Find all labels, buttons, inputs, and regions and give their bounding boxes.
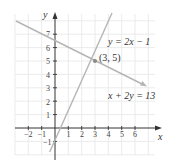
y-tick-label: −1 <box>43 138 52 147</box>
x-axis-label: x <box>157 131 163 142</box>
intersection-point <box>93 59 97 63</box>
y-axis-arrow-icon <box>53 12 58 19</box>
y-tick-label: 2 <box>46 98 50 107</box>
y-tick-label: 1 <box>46 111 50 120</box>
graph: −2 −1 1 2 3 4 5 6 7 6 5 4 3 2 1 −1 x y (… <box>0 0 172 163</box>
line1-label: y = 2x − 1 <box>107 36 150 47</box>
y-tick-label: 6 <box>46 44 50 53</box>
y-tick-label: 4 <box>46 71 50 80</box>
y-tick-label: 3 <box>46 84 50 93</box>
y-tick-label: 5 <box>46 57 50 66</box>
line2-label: x + 2y = 13 <box>107 90 155 101</box>
x-tick-label: −2 <box>24 130 33 139</box>
x-tick-label: 1 <box>67 130 71 139</box>
x-axis-arrow-icon <box>155 126 162 131</box>
x-tick-label: 6 <box>133 130 137 139</box>
point-label: (3, 5) <box>99 52 121 64</box>
x-tick-label: 5 <box>120 130 124 139</box>
x-tick-label: 3 <box>93 130 97 139</box>
line-x-plus-2y-equals-13 <box>16 21 143 85</box>
line2-arrow-icon <box>140 81 147 87</box>
y-axis-label: y <box>42 9 48 20</box>
x-tick-label: 4 <box>107 130 111 139</box>
x-tick-label: 2 <box>80 130 84 139</box>
